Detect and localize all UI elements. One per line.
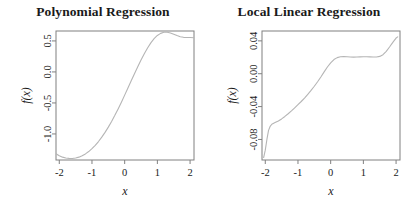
plot-frame-1 — [262, 31, 400, 160]
y-tick-label-0-3: -1.0 — [43, 126, 54, 143]
y-tick-label-1-3: -0.08 — [249, 129, 260, 151]
y-tick-label-0-0: 0.5 — [43, 34, 54, 47]
y-tick-label-1-1: 0.00 — [249, 65, 260, 83]
curve-0-0 — [56, 32, 194, 158]
x-tick-label-1-4: 2 — [393, 167, 398, 178]
panel-local-linear-regression: Local Linear Regression -2-10120.040.00-… — [206, 0, 412, 210]
x-axis-label-1: x — [327, 184, 334, 198]
x-axis-label-0: x — [121, 184, 128, 198]
y-tick-label-0-2: -0.5 — [43, 95, 54, 112]
x-tick-label-0-1: -1 — [88, 167, 97, 178]
x-tick-label-1-3: 1 — [361, 167, 366, 178]
x-tick-label-0-0: -2 — [55, 167, 64, 178]
figure-container: Polynomial Regression -2-10120.50.0-0.5-… — [0, 0, 412, 210]
curve-1-0 — [264, 37, 398, 158]
x-tick-label-0-3: 1 — [155, 167, 160, 178]
y-tick-label-1-0: 0.04 — [249, 31, 260, 50]
plot-area-right: -2-10120.040.00-0.04-0.08xf(x) — [206, 0, 412, 210]
y-axis-label-0: f(x) — [19, 87, 33, 104]
x-tick-label-0-2: 0 — [122, 167, 127, 178]
x-tick-label-0-4: 2 — [187, 167, 192, 178]
y-axis-label-1: f(x) — [225, 87, 239, 104]
plot-area-left: -2-10120.50.0-0.5-1.0xf(x) — [0, 0, 206, 210]
panel-polynomial-regression: Polynomial Regression -2-10120.50.0-0.5-… — [0, 0, 206, 210]
x-tick-label-1-0: -2 — [261, 167, 270, 178]
y-tick-label-1-2: -0.04 — [249, 95, 260, 118]
y-tick-label-0-1: 0.0 — [43, 65, 54, 78]
x-tick-label-1-1: -1 — [294, 167, 303, 178]
x-tick-label-1-2: 0 — [328, 167, 333, 178]
